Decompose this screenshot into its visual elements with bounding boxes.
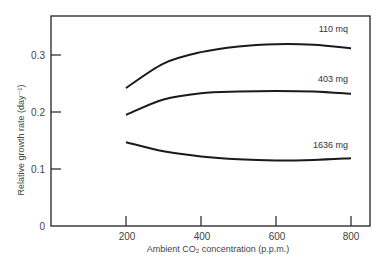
y-tick-label: 0.1	[31, 164, 45, 175]
series-label-110mg: 110 mq	[319, 24, 348, 34]
chart: 0 0.1 0.2 0.3 200 400 600 800 Ambient CO…	[0, 0, 385, 271]
curve-403mg	[126, 91, 351, 115]
y-tick-label: 0.3	[31, 50, 45, 61]
y-tick-label: 0	[39, 221, 45, 232]
y-tick-label: 0.2	[31, 107, 45, 118]
y-axis: 0 0.1 0.2 0.3	[31, 50, 61, 232]
plot-frame	[51, 16, 370, 226]
y-axis-label: Relative growth rate (day⁻¹)	[16, 84, 26, 195]
x-tick-label: 800	[343, 231, 360, 242]
series-label-1636mg: 1636 mg	[313, 140, 348, 150]
x-tick-label: 200	[119, 231, 136, 242]
x-tick-label: 400	[194, 231, 211, 242]
x-axis: 200 400 600 800	[119, 216, 360, 242]
x-axis-label: Ambient CO₂ concentration (p.p.m.)	[147, 244, 290, 254]
series-label-403mg: 403 mg	[318, 74, 348, 84]
x-tick-label: 600	[269, 231, 286, 242]
